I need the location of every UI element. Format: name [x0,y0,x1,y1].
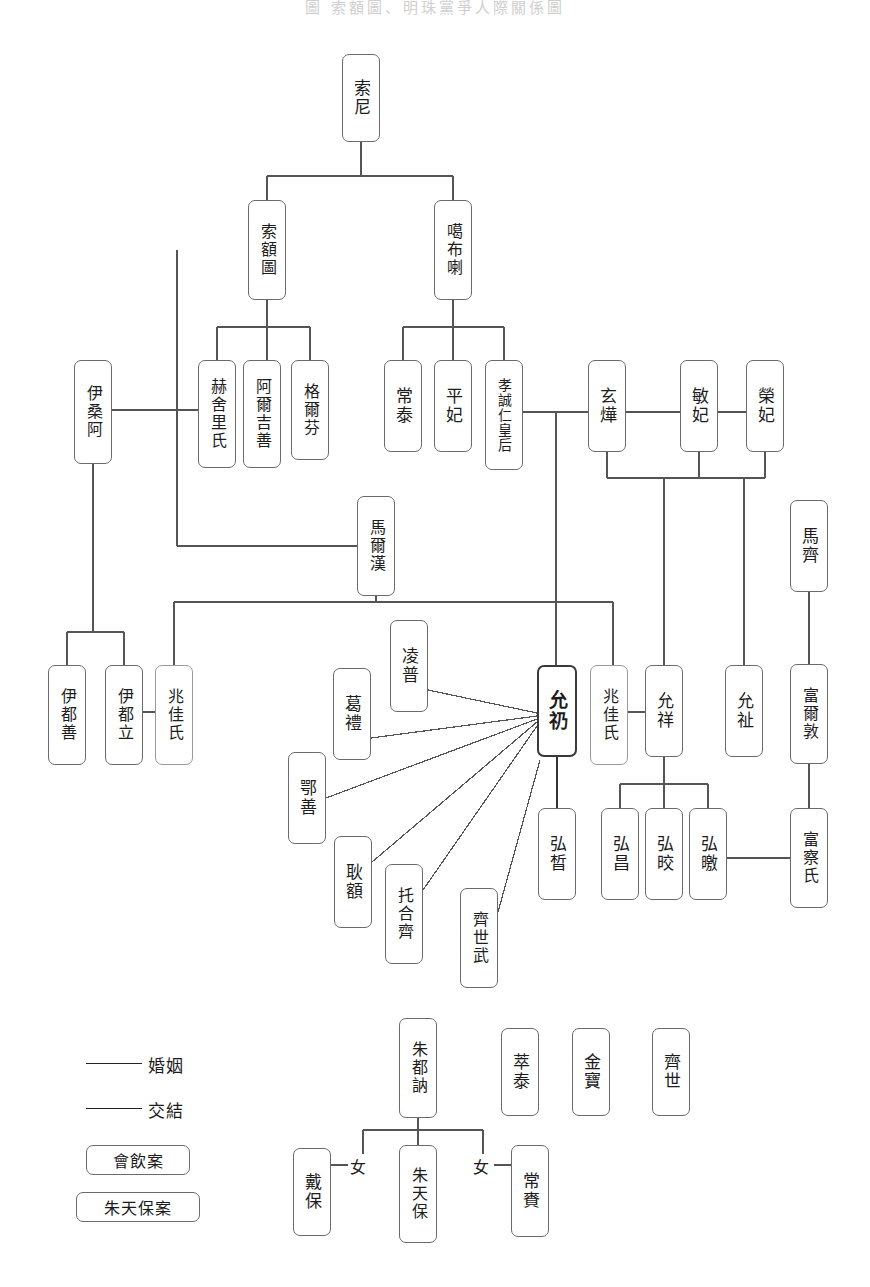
node-changlai[interactable]: 常賚 [511,1145,549,1237]
node-label-suo-e-tu: 索額圖 [259,223,275,277]
node-label-zhaojia-left: 兆佳氏 [166,688,182,742]
node-label-hongxiao: 弘曒 [700,835,717,873]
node-label-gerfen: 格爾芬 [302,383,318,437]
legend-box-case-drinking: 會飲案 [86,1145,190,1175]
node-label-daibao: 戴保 [304,1173,321,1211]
node-pingfei[interactable]: 平妃 [434,360,472,452]
node-maqi[interactable]: 馬齊 [790,500,828,592]
node-label-suoni: 索尼 [353,79,370,117]
node-label-lingpu: 凌普 [401,647,418,685]
node-suo-e-tu[interactable]: 索額圖 [248,200,286,300]
node-fuchashi[interactable]: 富察氏 [790,808,828,908]
node-gabula[interactable]: 噶布喇 [434,200,472,300]
node-label-zhutianbao: 朱天保 [410,1167,426,1221]
node-daibao[interactable]: 戴保 [293,1148,331,1236]
node-label-jinbao: 金寶 [583,1053,600,1091]
node-label-qishi: 齊世 [663,1053,680,1091]
node-heshelishi[interactable]: 赫舍里氏 [198,360,236,468]
node-yunzhi[interactable]: 允祉 [725,665,763,757]
legend-line-association [86,1108,142,1109]
node-aerjishan[interactable]: 阿爾吉善 [243,360,281,468]
legend-label-association: 交結 [148,1097,184,1122]
relation-label-daughter-left: 女 [348,1154,368,1178]
node-label-fuchashi: 富察氏 [801,831,817,885]
node-label-cuitai: 萃泰 [512,1053,529,1091]
node-xiaochengren[interactable]: 孝誠仁皇后 [485,360,523,470]
node-yunxiang[interactable]: 允祥 [645,665,683,757]
node-label-yisang-a: 伊桑阿 [85,385,101,439]
node-label-xuanye: 玄燁 [599,387,616,425]
node-hongchang[interactable]: 弘昌 [601,808,639,900]
node-qishiwu[interactable]: 齊世武 [460,888,498,988]
node-label-yunzhi: 允祉 [736,692,753,730]
node-yisang-a[interactable]: 伊桑阿 [74,360,112,464]
legend-box-case-drinking-label: 會飲案 [113,1148,164,1172]
node-hongxi[interactable]: 弘晳 [538,808,576,900]
node-label-minfei: 敏妃 [691,387,708,425]
node-hongxiao[interactable]: 弘曒 [689,808,727,900]
node-zhudune[interactable]: 朱都訥 [399,1018,437,1118]
legend-label-marriage: 婚姻 [148,1052,184,1077]
node-label-aerjishan: 阿爾吉善 [254,378,270,450]
page-title: 圖 索額圖、明珠黨爭人際關係圖 [0,0,870,17]
node-hongjiao[interactable]: 弘晈 [645,808,683,900]
node-jinbao[interactable]: 金寶 [572,1028,610,1116]
node-xuanye[interactable]: 玄燁 [588,360,626,452]
node-label-yunxiang: 允祥 [656,692,673,730]
node-geli[interactable]: 葛禮 [333,668,371,760]
node-zhaojia-left[interactable]: 兆佳氏 [155,665,193,765]
node-gerfen[interactable]: 格爾芬 [291,360,329,460]
node-changtai[interactable]: 常泰 [384,360,422,452]
node-qishi[interactable]: 齊世 [652,1028,690,1116]
node-label-qishiwu: 齊世武 [471,911,487,965]
node-yunreng[interactable]: 允礽 [537,665,577,757]
node-label-geli: 葛禮 [344,695,361,733]
legend-box-case-zhutianbao: 朱天保案 [76,1192,200,1222]
node-lingpu[interactable]: 凌普 [390,620,428,712]
node-label-zhaojia-mid: 兆佳氏 [601,688,617,742]
legend-box-case-zhutianbao-label: 朱天保案 [104,1195,172,1219]
node-label-yunreng: 允礽 [548,690,567,732]
node-label-tuheqi: 托合齊 [396,887,412,941]
node-minfei[interactable]: 敏妃 [680,360,718,452]
node-label-fuerdun: 富爾敦 [801,687,817,741]
node-label-yiduli: 伊都立 [116,688,132,742]
node-label-pingfei: 平妃 [445,387,462,425]
node-label-changlai: 常賚 [522,1172,539,1210]
node-zhutianbao[interactable]: 朱天保 [399,1145,437,1243]
node-rongfei[interactable]: 榮妃 [746,360,784,452]
node-zhaojia-mid[interactable]: 兆佳氏 [590,665,628,765]
node-label-gen-e: 耿額 [345,863,362,901]
diagram-canvas: 圖 索額圖、明珠黨爭人際關係圖 [0,0,870,1287]
node-label-maerhan: 馬爾漢 [368,519,384,573]
node-yidushan[interactable]: 伊都善 [48,665,86,765]
node-eshan[interactable]: 鄂善 [288,752,326,844]
node-label-hongchang: 弘昌 [612,835,629,873]
node-label-maqi: 馬齊 [801,527,818,565]
node-label-eshan: 鄂善 [299,779,316,817]
node-label-heshelishi: 赫舍里氏 [209,378,225,450]
node-label-zhudune: 朱都訥 [410,1041,426,1095]
node-cuitai[interactable]: 萃泰 [501,1028,539,1116]
node-suoni[interactable]: 索尼 [342,54,380,142]
node-label-gabula: 噶布喇 [445,223,461,277]
node-label-yidushan: 伊都善 [59,688,75,742]
node-tuheqi[interactable]: 托合齊 [385,864,423,964]
node-label-changtai: 常泰 [395,387,412,425]
node-yiduli[interactable]: 伊都立 [105,665,143,765]
node-fuerdun[interactable]: 富爾敦 [790,664,828,764]
node-label-rongfei: 榮妃 [757,387,774,425]
node-maerhan[interactable]: 馬爾漢 [357,496,395,596]
legend-line-marriage [86,1063,142,1064]
relation-label-daughter-right: 女 [471,1154,491,1178]
node-label-xiaochengren: 孝誠仁皇后 [497,378,511,453]
node-label-hongjiao: 弘晈 [656,835,673,873]
node-label-hongxi: 弘晳 [549,835,566,873]
node-gen-e[interactable]: 耿額 [334,836,372,928]
